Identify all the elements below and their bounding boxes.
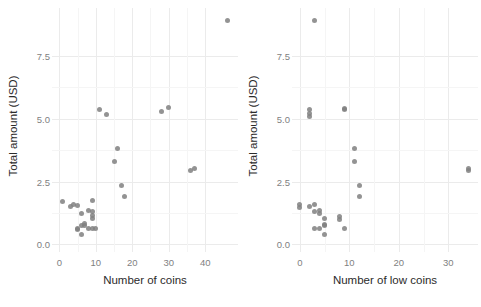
y-tick-label: 2.5 <box>264 176 290 187</box>
data-point <box>166 105 171 110</box>
data-point <box>75 227 80 232</box>
gridline-horizontal-minor <box>52 87 238 88</box>
data-point <box>79 232 84 237</box>
data-point <box>90 216 95 221</box>
data-point <box>82 221 87 226</box>
gridline-horizontal <box>52 244 238 245</box>
scatter-plot-figure: Total amount (USD)0.02.55.07.5010203040N… <box>0 0 481 307</box>
data-point <box>112 159 117 164</box>
data-point <box>357 183 362 188</box>
gridline-horizontal <box>292 182 478 183</box>
x-tick-label: 40 <box>200 257 211 268</box>
gridline-horizontal <box>292 244 478 245</box>
y-tick-label: 5.0 <box>24 113 50 124</box>
gridline-vertical-minor <box>114 8 115 252</box>
data-point <box>119 183 124 188</box>
y-tick-label: 7.5 <box>24 50 50 61</box>
data-point <box>352 159 357 164</box>
data-point <box>322 232 327 237</box>
y-axis-ticks: 0.02.55.07.5 <box>22 0 50 307</box>
gridline-vertical <box>132 8 133 252</box>
gridline-vertical <box>205 8 206 252</box>
x-tick-label: 10 <box>344 257 355 268</box>
gridline-vertical <box>349 8 350 252</box>
y-axis-label: Total amount (USD) <box>242 0 264 252</box>
data-point <box>307 114 312 119</box>
data-point <box>357 194 362 199</box>
data-point <box>104 112 109 117</box>
y-axis-label-text: Total amount (USD) <box>247 76 259 177</box>
data-point <box>297 205 302 210</box>
gridline-vertical <box>96 8 97 252</box>
data-point <box>159 109 164 114</box>
data-point <box>312 202 317 207</box>
data-point <box>90 198 95 203</box>
data-point <box>60 199 65 204</box>
data-point <box>342 226 347 231</box>
y-tick-label: 7.5 <box>264 50 290 61</box>
gridline-horizontal-minor <box>292 150 478 151</box>
y-tick-label: 5.0 <box>264 113 290 124</box>
gridline-vertical-minor <box>424 8 425 252</box>
y-tick-label: 0.0 <box>24 239 50 250</box>
data-point <box>192 166 197 171</box>
data-point <box>75 203 80 208</box>
x-tick-label: 0 <box>57 257 62 268</box>
y-axis-label: Total amount (USD) <box>2 0 24 252</box>
gridline-horizontal <box>52 56 238 57</box>
x-tick-label: 20 <box>394 257 405 268</box>
data-point <box>322 223 327 228</box>
data-point <box>312 226 317 231</box>
gridline-vertical <box>399 8 400 252</box>
gridline-horizontal-minor <box>292 87 478 88</box>
data-point <box>97 107 102 112</box>
gridline-horizontal <box>52 119 238 120</box>
gridline-horizontal <box>52 182 238 183</box>
y-tick-label: 2.5 <box>24 176 50 187</box>
x-tick-label: 30 <box>443 257 454 268</box>
x-axis-label: Number of coins <box>52 274 238 286</box>
gridline-vertical-minor <box>187 8 188 252</box>
gridline-vertical-minor <box>150 8 151 252</box>
gridline-vertical <box>448 8 449 252</box>
gridline-vertical-minor <box>78 8 79 252</box>
gridline-vertical <box>59 8 60 252</box>
panel-left: Total amount (USD)0.02.55.07.5010203040N… <box>0 0 241 307</box>
y-tick-label: 0.0 <box>264 239 290 250</box>
data-point <box>322 216 327 221</box>
gridline-vertical-minor <box>374 8 375 252</box>
gridline-vertical <box>300 8 301 252</box>
data-point <box>93 226 98 231</box>
data-point <box>312 18 317 23</box>
data-point <box>79 211 84 216</box>
y-axis-label-text: Total amount (USD) <box>7 76 19 177</box>
gridline-horizontal-minor <box>52 150 238 151</box>
gridline-horizontal <box>292 119 478 120</box>
plot-area <box>292 8 478 252</box>
x-tick-label: 30 <box>163 257 174 268</box>
x-tick-label: 20 <box>127 257 138 268</box>
data-point <box>225 18 230 23</box>
x-axis-label: Number of low coins <box>292 274 478 286</box>
data-point <box>122 194 127 199</box>
data-point <box>337 217 342 222</box>
y-axis-ticks: 0.02.55.07.5 <box>262 0 290 307</box>
x-tick-label: 0 <box>297 257 302 268</box>
panel-right: Total amount (USD)0.02.55.07.50102030Num… <box>240 0 481 307</box>
gridline-horizontal <box>292 56 478 57</box>
gridline-vertical <box>169 8 170 252</box>
x-tick-label: 10 <box>90 257 101 268</box>
data-point <box>317 226 322 231</box>
plot-area <box>52 8 238 252</box>
